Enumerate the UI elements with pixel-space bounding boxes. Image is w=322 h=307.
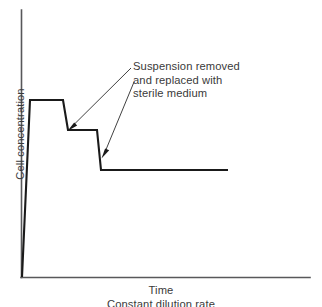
x-axis-label-time: Time: [0, 283, 322, 297]
annotation-line-2: and replaced with: [133, 74, 283, 88]
annotation-line-1: Suspension removed: [133, 60, 283, 74]
annotation-line-3: sterile medium: [133, 87, 283, 101]
chart-figure: Cell concentration Time Constant dilutio…: [0, 0, 322, 307]
annotation-text-block: Suspension removed and replaced with ste…: [133, 60, 283, 101]
plot-canvas: [0, 0, 322, 307]
x-axis-label-dilution-rate: Constant dilution rate: [0, 297, 322, 307]
cell-concentration-curve: [22, 100, 228, 277]
annotation-leader-line-2: [105, 82, 134, 152]
y-axis-label: Cell concentration: [13, 79, 27, 189]
x-axis-label-block: Time Constant dilution rate: [0, 283, 322, 307]
annotation-leader-line-1: [73, 68, 132, 126]
annotation-arrow-head-2: [102, 148, 110, 158]
